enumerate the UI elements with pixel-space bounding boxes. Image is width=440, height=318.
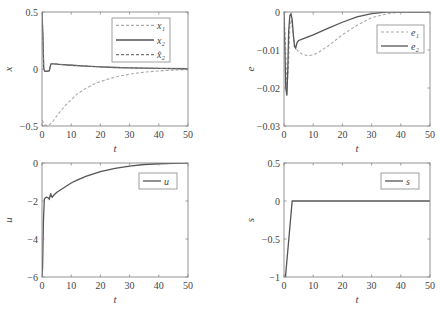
legend-label: x̂₂ [156, 49, 165, 60]
x-tick-label: 50 [425, 280, 435, 291]
y-tick-label: −4 [27, 234, 38, 245]
x-tick-label: 40 [396, 129, 406, 140]
y-tick-label: 0.5 [268, 158, 281, 169]
x-tick-label: 50 [183, 280, 193, 291]
x-axis-label: t [355, 293, 359, 305]
y-tick-label: −6 [27, 272, 38, 283]
x-axis-label: t [113, 293, 117, 305]
y-tick-label: 0 [275, 7, 280, 18]
legend: s [381, 173, 419, 189]
x-tick-label: 20 [337, 280, 347, 291]
series-x-x1 [42, 70, 188, 126]
x-tick-label: 50 [183, 129, 193, 140]
y-axis-label: u [2, 217, 14, 223]
x-tick-label: 30 [367, 280, 377, 291]
y-axis-label: s [244, 218, 256, 222]
x-tick-label: 20 [95, 280, 105, 291]
legend: e₁e₂ [377, 25, 424, 53]
y-tick-label: −0.5 [20, 121, 38, 132]
series-e-e2 [284, 12, 430, 96]
x-axis-label: t [355, 142, 359, 154]
x-tick-label: 30 [367, 129, 377, 140]
legend: x₁x₂x̂₂ [112, 18, 170, 62]
y-tick-label: −0.5 [262, 234, 280, 245]
y-tick-label: −2 [27, 196, 38, 207]
subplot-u: 01020304050−6−4−20tuu [2, 158, 193, 306]
subplot-s: 01020304050−1−0.500.5tss [244, 158, 435, 306]
y-tick-label: 0.5 [26, 7, 39, 18]
y-axis-label: x [2, 66, 14, 72]
x-tick-label: 40 [154, 129, 164, 140]
legend-label: e₂ [411, 41, 419, 52]
x-tick-label: 0 [282, 129, 287, 140]
y-tick-label: −0.01 [257, 45, 280, 56]
x-tick-label: 50 [425, 129, 435, 140]
y-tick-label: 0 [33, 64, 38, 75]
x-axis-label: t [113, 142, 117, 154]
x-tick-label: 0 [282, 280, 287, 291]
x-tick-label: 10 [66, 129, 76, 140]
subplot-x: 01020304050−0.500.5txx₁x₂x̂₂ [2, 7, 193, 155]
legend-label: s [406, 176, 410, 187]
y-axis-label: e [244, 66, 256, 71]
x-tick-label: 20 [337, 129, 347, 140]
legend-label: x₂ [156, 35, 165, 46]
figure: 01020304050−0.500.5txx₁x₂x̂₂01020304050−… [0, 0, 440, 318]
subplot-e: 01020304050−0.03−0.02−0.010tee₁e₂ [244, 7, 435, 155]
y-tick-label: −0.03 [257, 121, 280, 132]
x-tick-label: 30 [125, 280, 135, 291]
x-tick-label: 40 [154, 280, 164, 291]
legend: u [139, 173, 177, 189]
x-tick-label: 20 [95, 129, 105, 140]
legend-label: e₁ [411, 27, 419, 38]
x-tick-label: 40 [396, 280, 406, 291]
x-tick-label: 10 [308, 129, 318, 140]
legend-label: u [164, 176, 169, 187]
y-tick-label: −0.02 [257, 83, 280, 94]
legend-label: x₁ [156, 20, 165, 31]
x-tick-label: 0 [40, 129, 45, 140]
series-s-s [284, 201, 430, 277]
x-tick-label: 10 [66, 280, 76, 291]
x-tick-label: 30 [125, 129, 135, 140]
y-tick-label: −1 [269, 272, 280, 283]
x-tick-label: 0 [40, 280, 45, 291]
y-tick-label: 0 [33, 158, 38, 169]
y-tick-label: 0 [275, 196, 280, 207]
x-tick-label: 10 [308, 280, 318, 291]
